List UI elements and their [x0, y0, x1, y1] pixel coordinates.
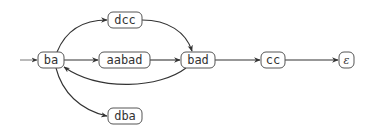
- edge-ba-to-dcc: [57, 20, 107, 52]
- node-dcc: dcc: [108, 12, 142, 28]
- node-label: bad: [187, 53, 209, 67]
- node-label: aabad: [106, 53, 142, 67]
- edge-ba-to-dba: [56, 68, 107, 116]
- node-label: ba: [44, 53, 58, 67]
- node-dba: dba: [108, 108, 142, 124]
- node-label: dba: [114, 109, 136, 123]
- edge-bad-to-ba: [64, 67, 186, 84]
- node-ba: ba: [38, 52, 64, 68]
- node-bad: bad: [181, 52, 215, 68]
- node-cc: cc: [261, 52, 285, 68]
- edges: [20, 20, 338, 116]
- edge-dcc-to-bad: [142, 20, 192, 51]
- node-epsilon: ε: [339, 52, 354, 68]
- state-diagram: ba dcc aabad bad cc ε dba: [0, 0, 370, 134]
- node-aabad: aabad: [99, 52, 150, 68]
- node-label: cc: [266, 53, 280, 67]
- node-label: ε: [344, 54, 350, 67]
- node-label: dcc: [114, 13, 136, 27]
